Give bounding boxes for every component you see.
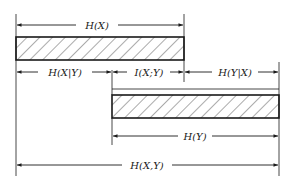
hx-dimension: H(X) bbox=[17, 20, 183, 31]
hy-given-x-label: H(Y|X) bbox=[217, 67, 252, 79]
hxy-label: H(X,Y) bbox=[129, 160, 164, 171]
hx-label: H(X) bbox=[84, 20, 109, 31]
hx-given-y-label: H(X|Y) bbox=[47, 67, 82, 79]
bar-x bbox=[16, 37, 184, 60]
ixy-label: I(X;Y) bbox=[134, 67, 164, 78]
hy-label: H(Y) bbox=[182, 131, 206, 142]
ixy-dimension: I(X;Y) bbox=[113, 67, 183, 78]
bar-y bbox=[112, 95, 279, 118]
hy-given-x-dimension: H(Y|X) bbox=[185, 67, 278, 79]
entropy-diagram: H(X) H(X|Y) I(X;Y) H(Y|X) H(Y) H(X,Y) bbox=[0, 0, 288, 189]
hy-dimension: H(Y) bbox=[113, 131, 278, 142]
hxy-dimension: H(X,Y) bbox=[17, 160, 278, 171]
hx-given-y-dimension: H(X|Y) bbox=[17, 67, 111, 79]
